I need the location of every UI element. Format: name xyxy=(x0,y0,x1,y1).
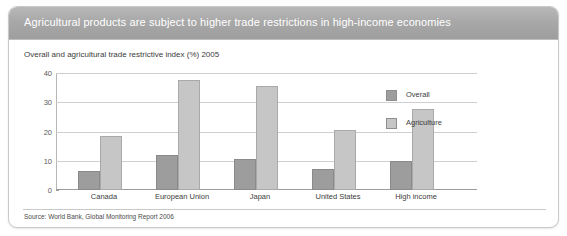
bar-canada-overall[interactable] xyxy=(78,171,100,190)
y-tick-label: 0 xyxy=(24,186,52,195)
figure-header-band: Agricultural products are subject to hig… xyxy=(9,7,559,40)
bar-united-states-overall[interactable] xyxy=(312,169,334,190)
bar-united-states-agriculture[interactable] xyxy=(334,130,356,190)
legend-item-overall[interactable]: Overall xyxy=(386,89,496,117)
bar-group-united-states xyxy=(312,73,364,190)
bar-european-union-overall[interactable] xyxy=(156,155,178,190)
x-label-high-income: High income xyxy=(380,192,452,202)
bar-group-canada xyxy=(78,73,130,190)
legend-label-overall: Overall xyxy=(406,90,430,99)
bar-canada-agriculture[interactable] xyxy=(100,136,122,190)
x-label-united-states: United States xyxy=(302,192,374,202)
y-tick-label: 20 xyxy=(24,128,52,137)
bar-group-japan xyxy=(234,73,286,190)
bar-japan-agriculture[interactable] xyxy=(256,86,278,190)
chart-legend: Overall Agriculture xyxy=(386,89,496,145)
legend-label-agriculture: Agriculture xyxy=(406,118,442,127)
legend-swatch-overall-icon xyxy=(386,90,397,101)
source-note: Source: World Bank, Global Monitoring Re… xyxy=(24,213,174,220)
bar-high-income-overall[interactable] xyxy=(390,161,412,190)
plot-area: Overall Agriculture xyxy=(56,73,477,190)
bar-japan-overall[interactable] xyxy=(234,159,256,190)
x-label-canada: Canada xyxy=(68,192,140,202)
y-axis: 40 30 20 10 0 xyxy=(24,73,52,190)
x-label-european-union: European Union xyxy=(146,192,218,202)
y-tick-mark xyxy=(56,190,59,191)
legend-item-agriculture[interactable]: Agriculture xyxy=(386,117,496,145)
x-label-european-union-text: European Union xyxy=(155,192,209,201)
legend-swatch-agriculture-icon xyxy=(386,118,397,129)
figure-card: Agricultural products are subject to hig… xyxy=(8,6,559,228)
bar-group-european-union xyxy=(156,73,208,190)
y-tick-label: 30 xyxy=(24,98,52,107)
y-tick-label: 40 xyxy=(24,69,52,78)
bar-chart: 40 30 20 10 0 xyxy=(24,65,544,197)
footer-divider xyxy=(23,209,546,210)
bar-european-union-agriculture[interactable] xyxy=(178,80,200,190)
chart-subtitle: Overall and agricultural trade restricti… xyxy=(24,50,219,59)
figure-title: Agricultural products are subject to hig… xyxy=(24,15,548,30)
x-label-japan: Japan xyxy=(224,192,296,202)
y-tick-label: 10 xyxy=(24,157,52,166)
